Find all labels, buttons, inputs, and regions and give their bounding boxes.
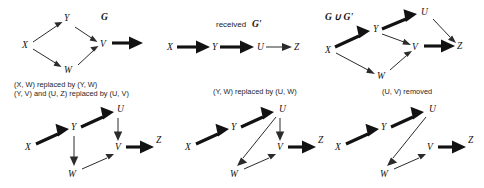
edge-u-w	[237, 117, 276, 166]
node-label-y: Y	[373, 24, 380, 34]
node-label-y: Y	[381, 122, 388, 132]
edge-u-w	[387, 117, 426, 166]
node-label-y: Y	[212, 42, 219, 52]
node-label-w: W	[64, 65, 73, 75]
edge-y-u	[81, 107, 114, 127]
node-label-w: W	[230, 169, 239, 179]
node-label-v: V	[115, 142, 122, 152]
node-label-u: U	[429, 104, 437, 114]
node-label-w: W	[380, 169, 389, 179]
panel-title-g: G	[101, 12, 108, 22]
panel-g-prime: received G' X Y U Z	[166, 19, 300, 54]
edge-v-z	[438, 141, 466, 154]
edge-x-y	[36, 124, 69, 144]
edge-x-y	[177, 41, 210, 54]
node-label-u: U	[257, 42, 265, 52]
edge-w-v	[244, 154, 276, 169]
edge-y-w	[70, 136, 78, 166]
edge-v-z	[126, 141, 154, 154]
node-label-v: V	[427, 142, 434, 152]
edge-x-y	[346, 124, 379, 144]
edge-y-v	[75, 27, 98, 42]
node-label-x: X	[21, 40, 29, 50]
caption-step2: (Y, W) replaced by (U, W)	[213, 87, 297, 96]
node-label-v: V	[100, 39, 107, 49]
edge-x-y	[33, 22, 63, 42]
edge-v-z	[424, 40, 455, 53]
node-label-w: W	[377, 71, 386, 81]
node-label-x: X	[24, 142, 32, 152]
edge-x-w	[33, 49, 62, 67]
panel-g: X Y W V G	[21, 12, 143, 75]
node-label-x: X	[334, 142, 342, 152]
edge-y-u	[382, 9, 417, 29]
edge-y-u	[220, 41, 254, 54]
panel-step1: X Y U V W Z	[24, 104, 162, 179]
node-label-u: U	[117, 104, 125, 114]
panel-step2: X Y U V W Z	[184, 104, 324, 179]
edge-y-u	[391, 107, 424, 127]
caption-step1-line1: (X, W) replaced by (Y, W)	[14, 80, 97, 89]
node-label-z: Z	[468, 135, 474, 145]
node-label-w: W	[68, 169, 77, 179]
edge-y-v	[382, 34, 411, 45]
edge-u-v	[114, 118, 122, 141]
edge-y-u	[241, 107, 274, 127]
graph-figure: X Y W V G received G' X Y U Z G ∪ G'	[0, 0, 484, 188]
node-label-v: V	[277, 142, 284, 152]
edge-v-z	[288, 141, 316, 154]
node-label-u: U	[279, 104, 287, 114]
node-label-x: X	[184, 142, 192, 152]
edge-w-v	[394, 154, 426, 169]
panel-step3: X Y U V W Z	[334, 104, 474, 179]
node-label-z: Z	[457, 41, 463, 51]
panel-title-union: G ∪ G'	[325, 12, 353, 22]
edge-w-v	[82, 154, 114, 169]
edge-u-z	[433, 19, 456, 43]
panel-union: G ∪ G'	[324, 7, 463, 81]
node-label-y: Y	[231, 122, 238, 132]
edge-x-y	[335, 26, 370, 47]
node-label-z: Z	[156, 135, 162, 145]
node-label-y: Y	[64, 13, 71, 23]
node-label-v: V	[412, 42, 419, 52]
node-label-z: Z	[294, 42, 300, 52]
panel-title-g-prime: G'	[252, 19, 262, 29]
edge-x-y	[196, 124, 229, 144]
node-label-x: X	[324, 45, 332, 55]
node-label-u: U	[421, 7, 429, 17]
panel-title-received: received	[216, 20, 246, 29]
edge-u-z	[266, 43, 292, 51]
node-label-z: Z	[318, 135, 324, 145]
node-label-y: Y	[71, 122, 78, 132]
edge-u-v	[276, 118, 284, 141]
node-label-x: X	[166, 42, 174, 52]
edge-w-v	[78, 46, 99, 65]
edge-v-out	[112, 37, 143, 50]
figure-canvas: X Y W V G received G' X Y U Z G ∪ G'	[0, 0, 484, 188]
edge-w-v	[390, 51, 412, 70]
caption-step1-line2: (Y, V) and (U, Z) replaced by (U, V)	[14, 89, 129, 98]
caption-step3: (U, V) removed	[382, 87, 432, 96]
edge-x-w	[336, 53, 375, 74]
